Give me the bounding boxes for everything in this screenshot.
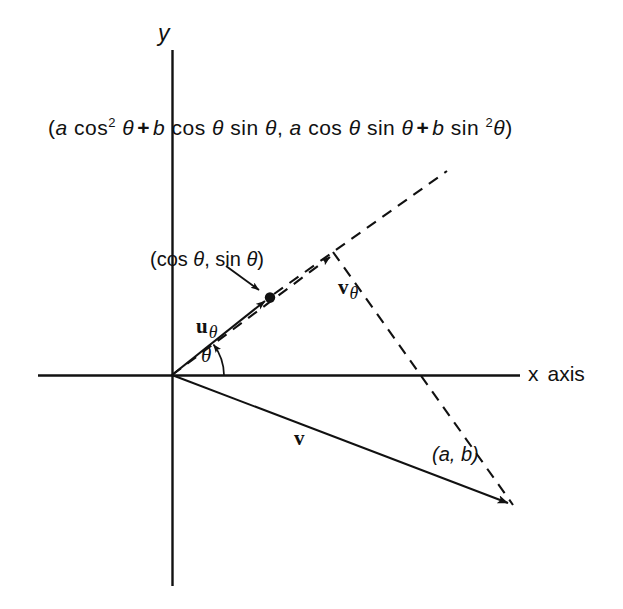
- formula-term4-coef: b: [432, 116, 444, 139]
- formula-term3-fn1: cos: [308, 116, 342, 139]
- projection-dashed-line: [333, 252, 513, 505]
- x-axis-label: xaxis: [528, 363, 585, 384]
- formula-term2-var2: θ: [265, 116, 277, 139]
- formula-term2-fn2: sin: [230, 116, 258, 139]
- u-theta-letter: u: [196, 314, 208, 338]
- u-theta-vector: [172, 301, 265, 375]
- u-theta-ray-dashed: [274, 171, 447, 294]
- formula-comma: ,: [277, 116, 283, 139]
- formula-term1-coef: a: [56, 116, 68, 139]
- theta-angle-label: θ: [201, 345, 211, 366]
- point-label-theta-1: θ: [193, 248, 204, 270]
- point-label-comma: ,: [204, 248, 210, 270]
- point-label-close-paren: ): [257, 248, 264, 270]
- u-theta-subscript: θ: [208, 324, 218, 342]
- unit-circle-point-dot: [265, 292, 275, 302]
- vector-rotation-diagram: [0, 0, 623, 609]
- formula-term3-var1: θ: [349, 116, 361, 139]
- formula-term1-exponent: 2: [108, 115, 116, 130]
- formula-term2-coef: b: [153, 116, 165, 139]
- formula-term3-var2: θ: [402, 116, 414, 139]
- v-theta-vector-label: vθ: [338, 277, 358, 298]
- x-axis-label-suffix: axis: [539, 362, 585, 385]
- formula-term4-fn: sin: [451, 116, 479, 139]
- formula-term1-var: θ: [122, 116, 134, 139]
- ab-point-label: (a, b): [432, 444, 479, 464]
- formula-term1-fn: cos: [74, 116, 108, 139]
- transformation-formula: (a cos2 θ+b cos θ sin θ, a cos θ sin θ+b…: [48, 116, 513, 138]
- point-label-open-paren: (: [150, 248, 157, 270]
- theta-angle-arc: [214, 345, 225, 376]
- v-theta-subscript: θ: [349, 285, 359, 303]
- formula-term2-var1: θ: [212, 116, 224, 139]
- point-label-theta-2: θ: [246, 248, 257, 270]
- unit-point-coordinates-label: (cos θ, sin θ): [150, 249, 264, 269]
- v-vector-label: v: [294, 428, 305, 449]
- formula-plus-2: +: [414, 116, 433, 139]
- formula-close-paren: ): [505, 116, 513, 139]
- point-label-cos: cos: [157, 248, 188, 270]
- point-label-sin: sin: [215, 248, 241, 270]
- formula-plus-1: +: [134, 116, 153, 139]
- formula-term2-fn1: cos: [172, 116, 206, 139]
- formula-term3-coef: a: [290, 116, 302, 139]
- v-vector: [172, 375, 508, 503]
- v-theta-letter: v: [338, 275, 349, 299]
- x-axis-label-letter: x: [528, 362, 539, 385]
- formula-term3-fn2: sin: [367, 116, 395, 139]
- y-axis-label: y: [158, 22, 170, 45]
- u-theta-vector-label: uθ: [196, 316, 217, 337]
- formula-term4-var: θ: [493, 116, 505, 139]
- formula-open-paren: (: [48, 116, 56, 139]
